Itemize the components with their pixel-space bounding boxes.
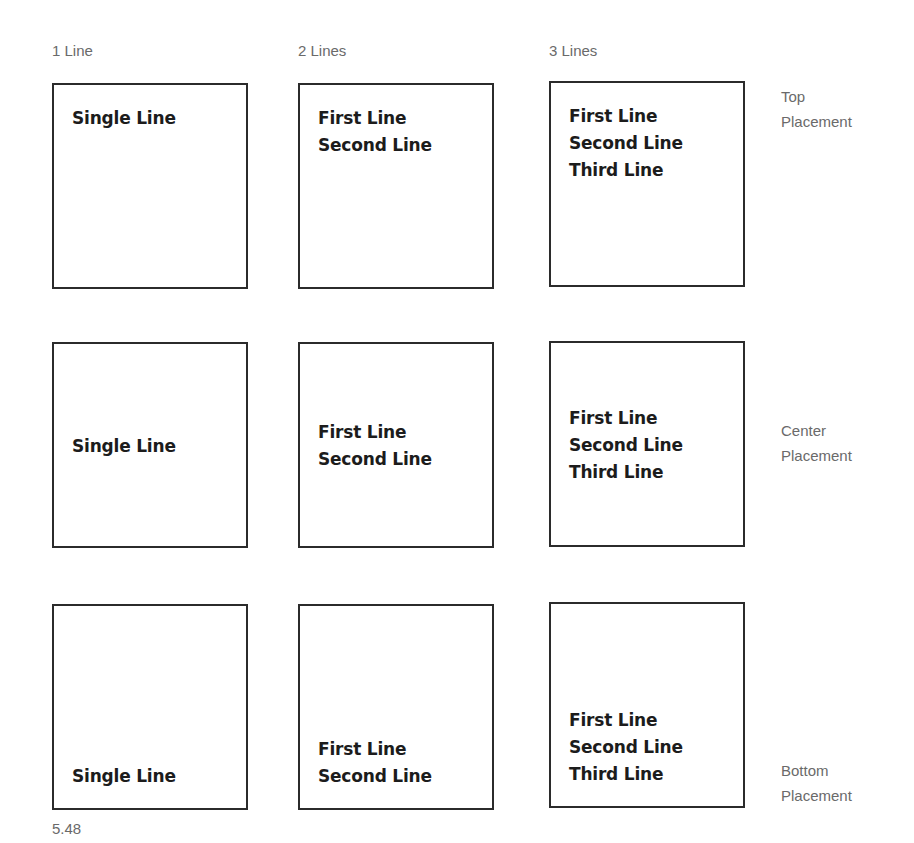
text-line: Third Line	[569, 459, 727, 486]
text-line: First Line	[318, 736, 476, 763]
row-label-center: Center Placement	[781, 418, 852, 468]
row-label-line: Placement	[781, 109, 852, 134]
text-line: Second Line	[569, 734, 727, 761]
box-bottom-1-line: Single Line	[52, 604, 248, 810]
box-bottom-3-lines: First Line Second Line Third Line	[549, 602, 745, 808]
column-header-2-lines: 2 Lines	[298, 42, 346, 59]
text-line: Single Line	[72, 763, 230, 790]
text-line: Second Line	[318, 132, 476, 159]
row-label-line: Placement	[781, 783, 852, 808]
box-top-1-line: Single Line	[52, 83, 248, 289]
box-top-3-lines: First Line Second Line Third Line	[549, 81, 745, 287]
text-line: First Line	[569, 707, 727, 734]
text-line: Second Line	[569, 130, 727, 157]
row-label-line: Bottom	[781, 758, 852, 783]
text-line: First Line	[569, 405, 727, 432]
text-line: First Line	[318, 105, 476, 132]
figure-number: 5.48	[52, 820, 81, 837]
text-line: Third Line	[569, 761, 727, 788]
box-center-2-lines: First Line Second Line	[298, 342, 494, 548]
row-label-line: Placement	[781, 443, 852, 468]
row-label-line: Top	[781, 84, 852, 109]
row-label-top: Top Placement	[781, 84, 852, 134]
text-line: Second Line	[318, 446, 476, 473]
row-label-bottom: Bottom Placement	[781, 758, 852, 808]
text-line: Second Line	[569, 432, 727, 459]
text-line: First Line	[318, 419, 476, 446]
row-label-line: Center	[781, 418, 852, 443]
text-line: Single Line	[72, 433, 230, 460]
text-line: Second Line	[318, 763, 476, 790]
text-line: Single Line	[72, 105, 230, 132]
column-header-1-line: 1 Line	[52, 42, 93, 59]
column-header-3-lines: 3 Lines	[549, 42, 597, 59]
box-center-1-line: Single Line	[52, 342, 248, 548]
box-top-2-lines: First Line Second Line	[298, 83, 494, 289]
text-line: Third Line	[569, 157, 727, 184]
box-bottom-2-lines: First Line Second Line	[298, 604, 494, 810]
text-line: First Line	[569, 103, 727, 130]
box-center-3-lines: First Line Second Line Third Line	[549, 341, 745, 547]
